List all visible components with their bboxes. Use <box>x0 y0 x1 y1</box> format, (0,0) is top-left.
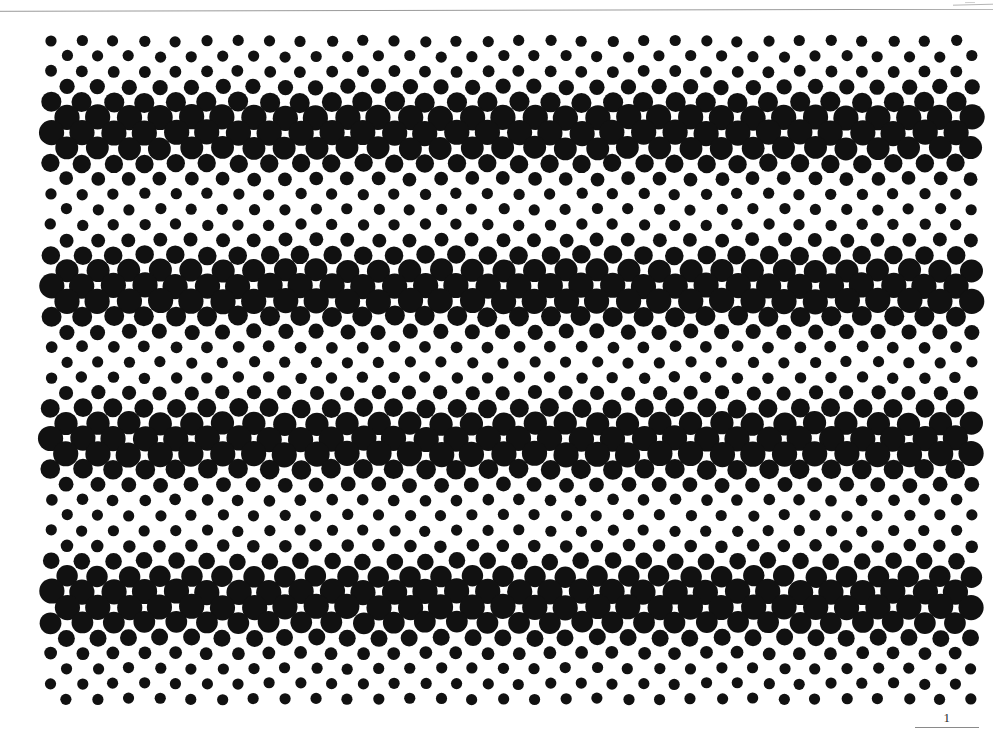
halftone-dot-lattice <box>0 0 993 736</box>
page-number-rule <box>915 727 979 728</box>
page-number-block: 1 <box>915 711 979 728</box>
page-number: 1 <box>915 711 979 725</box>
scanned-page: 1 <box>0 0 993 736</box>
